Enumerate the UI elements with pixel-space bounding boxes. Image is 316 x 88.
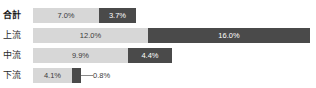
row-category-label: 上流 xyxy=(3,28,30,43)
callout-leader-line xyxy=(81,75,93,76)
bar-segment-dark[interactable]: 3.7% xyxy=(99,8,136,23)
chart-row: 中流9.9%4.4% xyxy=(0,48,316,63)
callout-value-label: 0.8% xyxy=(93,68,110,83)
bar-segment-value-label: 4.1% xyxy=(33,68,72,83)
bar-segment-value-label: 12.0% xyxy=(33,28,148,43)
row-category-label: 合計 xyxy=(3,8,30,23)
bar-segment-dark[interactable] xyxy=(72,68,81,83)
bar-segment-value-label: 9.9% xyxy=(33,48,128,63)
bar-segment-value-label: 3.7% xyxy=(99,8,136,23)
chart-row: 下流4.1%0.8% xyxy=(0,68,316,83)
row-category-label: 中流 xyxy=(3,48,30,63)
bar-segment-value-label: 7.0% xyxy=(33,8,99,23)
bar-segment-dark[interactable]: 16.0% xyxy=(148,28,310,43)
bar-segment-dark[interactable]: 4.4% xyxy=(128,48,172,63)
stacked-bar-chart: 合計7.0%3.7%上流12.0%16.0%中流9.9%4.4%下流4.1%0.… xyxy=(0,0,316,88)
bar-segment-value-label: 16.0% xyxy=(148,28,310,43)
chart-row: 上流12.0%16.0% xyxy=(0,28,316,43)
bar-segment-value-label xyxy=(72,68,81,83)
row-category-label: 下流 xyxy=(3,68,30,83)
chart-row: 合計7.0%3.7% xyxy=(0,8,316,23)
bar-segment-light[interactable]: 9.9% xyxy=(33,48,128,63)
bar-segment-light[interactable]: 4.1% xyxy=(33,68,72,83)
bar-segment-light[interactable]: 12.0% xyxy=(33,28,148,43)
bar-segment-light[interactable]: 7.0% xyxy=(33,8,99,23)
bar-segment-value-label: 4.4% xyxy=(128,48,172,63)
